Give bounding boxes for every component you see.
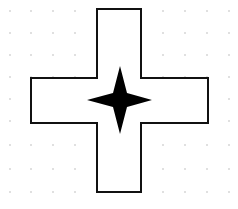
grid-dot xyxy=(9,120,11,122)
grid-dot xyxy=(9,191,11,193)
grid-dot xyxy=(9,76,11,78)
grid-dot xyxy=(228,98,230,100)
grid-dot xyxy=(162,32,164,34)
grid-dot xyxy=(206,10,208,12)
grid-dot xyxy=(206,191,208,193)
grid-dot xyxy=(52,54,54,56)
grid-dot xyxy=(228,10,230,12)
grid-dot xyxy=(228,54,230,56)
grid-dot xyxy=(9,32,11,34)
grid-dot xyxy=(184,10,186,12)
grid-dot xyxy=(52,10,54,12)
grid-dot xyxy=(74,10,76,12)
grid-dot xyxy=(30,144,32,146)
grid-dot xyxy=(9,54,11,56)
grid-dot xyxy=(206,144,208,146)
grid-dot xyxy=(162,10,164,12)
grid-dot xyxy=(206,168,208,170)
grid-dot xyxy=(52,144,54,146)
grid-dot xyxy=(228,32,230,34)
grid-dot xyxy=(9,144,11,146)
grid-dot xyxy=(74,168,76,170)
grid-dot xyxy=(52,32,54,34)
grid-dot xyxy=(184,54,186,56)
grid-dot xyxy=(228,120,230,122)
grid-dot xyxy=(9,10,11,12)
grid-dot xyxy=(184,144,186,146)
grid-dot xyxy=(228,76,230,78)
grid-dot xyxy=(74,144,76,146)
grid-dot xyxy=(52,168,54,170)
grid-dot xyxy=(30,32,32,34)
grid-dot xyxy=(162,54,164,56)
grid-dot xyxy=(30,168,32,170)
grid-dot xyxy=(30,10,32,12)
grid-dot xyxy=(206,54,208,56)
grid-dot xyxy=(184,168,186,170)
grid-dot xyxy=(74,54,76,56)
grid-dot xyxy=(30,191,32,193)
grid-dot xyxy=(30,54,32,56)
grid-dot xyxy=(228,144,230,146)
grid-dot xyxy=(228,191,230,193)
grid-dot xyxy=(9,98,11,100)
cross-diagram xyxy=(0,0,238,209)
grid-dot xyxy=(9,168,11,170)
grid-dot xyxy=(184,32,186,34)
grid-dot xyxy=(162,168,164,170)
grid-dot xyxy=(206,32,208,34)
grid-dot xyxy=(228,168,230,170)
grid-dot xyxy=(52,191,54,193)
grid-dot xyxy=(74,191,76,193)
grid-dot xyxy=(162,191,164,193)
grid-dot xyxy=(184,191,186,193)
grid-dot xyxy=(74,32,76,34)
grid-dot xyxy=(162,144,164,146)
